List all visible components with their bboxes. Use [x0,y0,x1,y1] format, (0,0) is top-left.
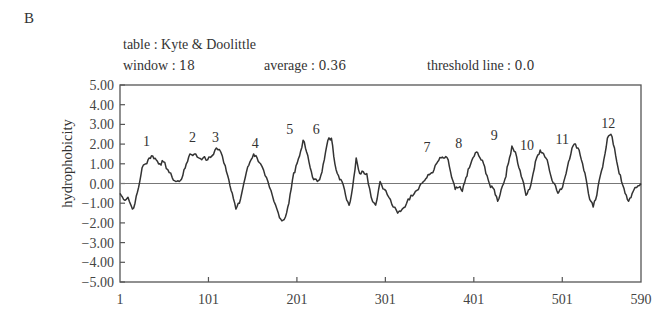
x-tick-label: 301 [375,292,396,307]
peak-label-8: 8 [455,136,462,151]
x-tick-label: 401 [463,292,484,307]
y-tick-label: −5.00 [82,275,114,290]
peak-label-11: 11 [556,132,569,147]
peak-label-3: 3 [212,130,219,145]
y-tick-label: 0.00 [90,177,115,192]
x-tick-label: 590 [631,292,652,307]
peak-label-2: 2 [189,130,196,145]
y-tick-label: 4.00 [90,98,115,113]
y-tick-label: 3.00 [90,117,115,132]
peak-label-5: 5 [286,122,293,137]
peak-label-4: 4 [252,136,259,151]
x-tick-label: 1 [117,292,124,307]
y-axis: 5.004.003.002.001.000.00−1.00−2.00−3.00−… [82,78,125,290]
y-tick-label: 1.00 [90,157,115,172]
y-axis-label: hydrophobicity [59,118,75,207]
y-tick-label: 5.00 [90,78,115,93]
peak-label-9: 9 [491,128,498,143]
y-tick-label: 2.00 [90,137,115,152]
peak-label-6: 6 [313,122,320,137]
peak-label-7: 7 [423,140,430,155]
hydrophobicity-chart: hydrophobicity 5.004.003.002.001.000.00−… [0,0,668,332]
y-tick-label: −4.00 [82,255,114,270]
y-tick-label: −2.00 [82,216,114,231]
x-tick-label: 501 [552,292,573,307]
peak-label-12: 12 [601,116,615,131]
hydrophobicity-profile [120,134,641,221]
y-tick-label: −1.00 [82,196,114,211]
peak-label-10: 10 [520,138,534,153]
y-axis-title: hydrophobicity [59,118,75,207]
peak-label-1: 1 [143,134,150,149]
y-tick-label: −3.00 [82,236,114,251]
x-tick-label: 201 [286,292,307,307]
x-tick-label: 101 [198,292,219,307]
peak-labels: 123456789101112 [143,116,615,155]
